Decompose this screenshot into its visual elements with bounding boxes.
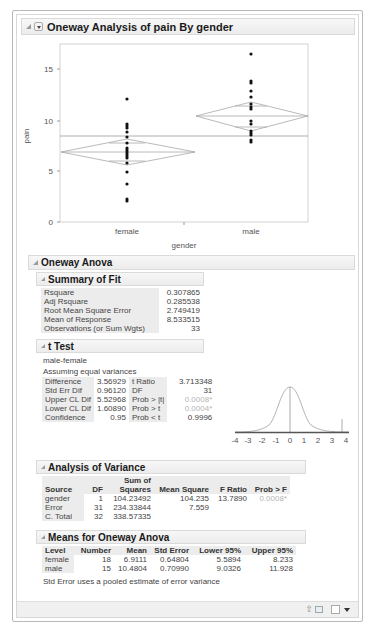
t-test-header[interactable]: t Test [36,339,204,353]
summary-of-fit-title: Summary of Fit [48,274,121,285]
svg-text:1: 1 [302,436,307,445]
analysis-of-variance-title: Analysis of Variance [48,462,145,473]
disclosure-triangle-icon[interactable] [41,277,45,281]
means-note: Std Error uses a pooled estimate of erro… [43,577,220,586]
dropdown-icon[interactable] [344,608,350,612]
oneway-plot[interactable]: 15 10 5 0 pain female male gender [13,11,364,251]
x-axis: female male gender [115,222,260,250]
plot-area [60,44,308,222]
disclosure-triangle-icon[interactable] [41,535,45,539]
svg-text:0: 0 [288,436,293,445]
svg-text:-3: -3 [244,436,252,445]
svg-text:male: male [242,227,260,236]
svg-text:3: 3 [330,436,335,445]
table-row: Std Err Dif0.96120DF31 [42,386,215,395]
table-row: Mean of Response8.533515 [41,315,203,324]
table-row: C. Total32338.57335 [42,512,290,521]
means-header[interactable]: Means for Oneway Anova [36,530,306,544]
table-row: Adj Rsquare0.285538 [41,297,203,306]
t-test-comparison: male-female [43,356,87,365]
disclosure-triangle-icon[interactable] [41,344,45,348]
svg-text:10: 10 [44,117,53,126]
table-row: Root Mean Square Error2.749419 [41,306,203,315]
oneway-anova-title: Oneway Anova [41,257,112,268]
table-row: gender1104.23492104.23513.78900.0008* [42,494,290,503]
table-row: female186.91110.648045.58948.233 [42,555,296,564]
t-test-table: Difference3.56929t Ratio3.713348 Std Err… [42,377,215,422]
svg-text:5: 5 [49,167,54,176]
window-icon[interactable] [331,605,340,614]
table-row: Upper CL Dif5.52968Prob > |t|0.0008* [42,395,215,404]
t-distribution-plot: -4 -3 -2 -1 0 1 2 3 4 [231,373,361,445]
svg-text:15: 15 [44,65,53,74]
t-test-assumption: Assuming equal variances [43,367,136,376]
table-row: Rsquare0.307865 [41,288,203,297]
report-window: Oneway Analysis of pain By gender 15 10 … [12,10,363,622]
y-axis: 15 10 5 0 pain [22,65,60,227]
table-row: Error31234.338447.559 [42,503,290,512]
x-axis-label: gender [172,241,197,250]
table-row: Lower CL Dif1.60890Prob > t0.0004* [42,404,215,413]
svg-text:2: 2 [316,436,321,445]
means-title: Means for Oneway Anova [48,532,169,543]
up-arrow-icon[interactable]: ⇧ [305,604,313,614]
table-row: Observations (or Sum Wgts)33 [41,324,203,333]
svg-text:-1: -1 [272,436,280,445]
table-row: male1510.48040.709909.032611.928 [42,564,296,573]
oneway-anova-header[interactable]: Oneway Anova [28,255,355,270]
export-icon[interactable] [315,606,323,613]
svg-text:female: female [115,227,140,236]
analysis-of-variance-table: Sum of Source DF Squares Mean Square F R… [42,476,290,521]
t-test-title: t Test [48,341,74,352]
svg-text:-2: -2 [258,436,266,445]
table-row: Difference3.56929t Ratio3.713348 [42,377,215,386]
table-row: Confidence0.95Prob < t0.9996 [42,413,215,422]
svg-text:4: 4 [344,436,349,445]
summary-of-fit-table: Rsquare0.307865 Adj Rsquare0.285538 Root… [41,288,203,333]
svg-text:-4: -4 [231,436,239,445]
summary-of-fit-header[interactable]: Summary of Fit [36,272,204,286]
svg-text:0: 0 [49,218,54,227]
disclosure-triangle-icon[interactable] [33,260,38,265]
y-axis-label: pain [22,128,31,143]
report-footer-toolbar: ⇧ [17,601,358,617]
means-table: Level Number Mean Std Error Lower 95% Up… [42,546,296,573]
analysis-of-variance-header[interactable]: Analysis of Variance [36,460,306,474]
disclosure-triangle-icon[interactable] [41,465,45,469]
